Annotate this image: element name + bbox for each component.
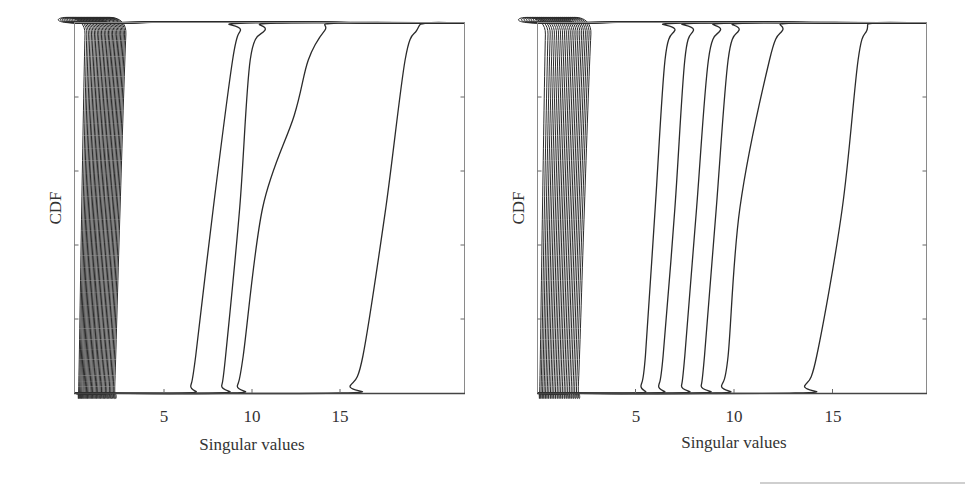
cdf-curve-small-sv: [538, 17, 927, 398]
cdf-curve-sv-R1: [538, 22, 927, 393]
cdf-chart-right: 5 10 15 Singular values CDF: [0, 0, 965, 484]
cdf-curve-sv-R2: [538, 22, 927, 393]
cdf-curve-small-sv: [538, 17, 927, 398]
cdf-curve-small-sv: [538, 17, 927, 398]
cdf-curve-small-sv: [538, 17, 927, 398]
cdf-curve-small-sv: [538, 17, 927, 398]
cdf-curve-small-sv: [538, 17, 927, 398]
cdf-curve-small-sv: [538, 17, 927, 398]
plot-frame-right: [538, 23, 927, 394]
cdf-curve-small-sv: [538, 17, 927, 398]
y-axis-label: CDF: [509, 191, 528, 224]
cdf-curve-small-sv: [538, 17, 927, 398]
cdf-curve-small-sv: [538, 17, 927, 398]
cdf-curve-sv-R5: [538, 22, 927, 393]
cdf-curve-small-sv: [538, 17, 927, 398]
cdf-plot-right: 5 10 15 Singular values CDF: [0, 0, 965, 484]
cdf-curve-sv-R4: [538, 22, 927, 393]
cdf-curve-small-sv: [538, 17, 927, 398]
cdf-curve-sv-R3: [538, 22, 927, 393]
x-tick-label-10: 10: [726, 407, 743, 426]
cdf-curve-small-sv: [538, 17, 927, 398]
cdf-curve-small-sv: [529, 17, 927, 398]
y-ticks-right: [538, 97, 927, 319]
x-tick-label-5: 5: [632, 407, 641, 426]
curves-right: [518, 17, 926, 398]
cdf-curve-small-sv: [538, 17, 927, 398]
cdf-curve-sv-R6: [538, 22, 927, 393]
cdf-curve-small-sv: [536, 17, 927, 398]
cdf-curve-small-sv: [538, 17, 927, 398]
x-axis-label: Singular values: [681, 433, 786, 452]
x-tick-label-15: 15: [825, 407, 842, 426]
cdf-curve-small-sv: [538, 17, 927, 398]
